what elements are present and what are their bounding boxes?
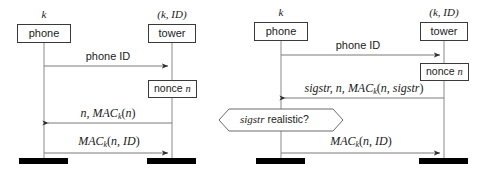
right-message-label-2: sigstr, n, MACk(n, sigstr) bbox=[288, 81, 440, 96]
right-participant-tower[interactable]: tower bbox=[420, 22, 468, 41]
right-nonce-label: nonce bbox=[426, 65, 455, 77]
right-message-label-1: phone ID bbox=[318, 39, 398, 51]
left-phone-key-label: k bbox=[14, 8, 74, 20]
left-terminator-phone bbox=[19, 158, 68, 164]
left-nonce-label: nonce bbox=[154, 82, 183, 94]
left-participant-tower[interactable]: tower bbox=[148, 24, 196, 43]
left-activation-nonce[interactable]: nonce n bbox=[148, 80, 197, 98]
left-tower-key-label: (k, ID) bbox=[140, 8, 204, 20]
left-message-label-3: MACk(n, ID) bbox=[56, 134, 162, 149]
right-decision-label: sigstr realistic? bbox=[240, 113, 309, 125]
left-participant-phone[interactable]: phone bbox=[17, 24, 71, 43]
left-terminator-tower bbox=[147, 158, 196, 164]
left-message-label-2: n, MACk(n) bbox=[58, 106, 158, 121]
right-tower-key-label: (k, ID) bbox=[412, 6, 476, 18]
right-activation-nonce[interactable]: nonce n bbox=[420, 63, 469, 81]
right-terminator-phone bbox=[256, 158, 305, 164]
right-terminator-tower bbox=[419, 158, 468, 164]
right-phone-key-label: k bbox=[251, 6, 311, 18]
right-nonce-var: n bbox=[458, 66, 463, 77]
left-nonce-var: n bbox=[186, 83, 191, 94]
right-message-label-3: MACk(n, ID) bbox=[308, 134, 414, 149]
right-decision-label-rest: realistic? bbox=[264, 113, 308, 125]
left-sequence-diagram: k phone (k, ID) tower nonce n phone ID n… bbox=[0, 0, 486, 177]
right-decision-label-italic: sigstr bbox=[240, 113, 264, 125]
left-message-label-1: phone ID bbox=[68, 50, 148, 62]
right-participant-phone[interactable]: phone bbox=[254, 22, 308, 41]
